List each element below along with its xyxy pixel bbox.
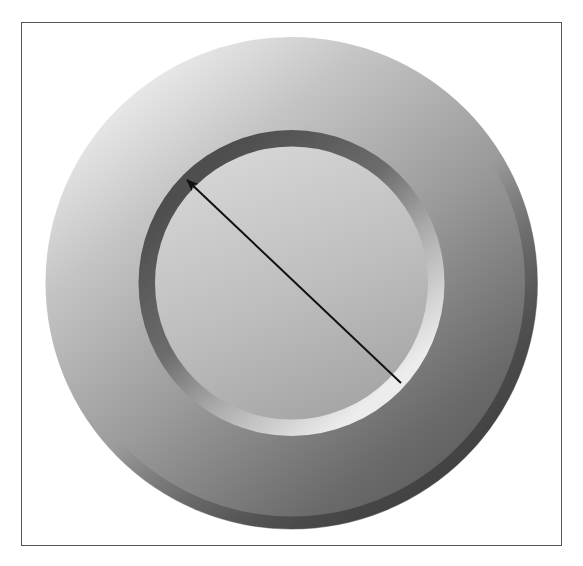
diagram-canvas: [0, 0, 583, 566]
disc-illustration: [0, 0, 583, 566]
